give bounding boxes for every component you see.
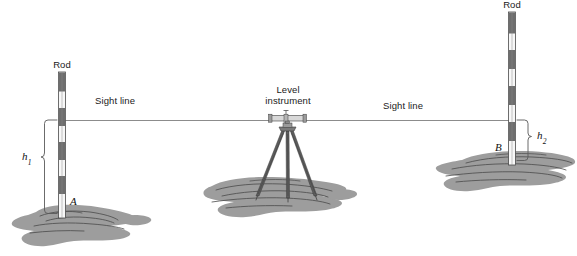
- level-instrument-label: Level instrument: [265, 85, 310, 107]
- height-1-label: h1: [22, 150, 31, 165]
- ground-left: [12, 205, 152, 246]
- height-2-subscript: 2: [543, 137, 547, 146]
- leveling-survey-diagram: Rod Rod Sight line Sight line Level inst…: [0, 0, 577, 256]
- right-rod: [509, 12, 516, 165]
- height-1-subscript: 1: [28, 158, 32, 167]
- left-rod-label: Rod: [53, 60, 71, 71]
- height-2-symbol: h: [537, 129, 543, 141]
- instrument-spindle: [286, 121, 290, 124]
- sight-line-right-label: Sight line: [383, 101, 423, 112]
- ground-right: [436, 151, 575, 191]
- height-2-label: h2: [537, 129, 546, 144]
- level-instrument-label-line2: instrument: [265, 96, 310, 107]
- diagram-canvas: [0, 0, 577, 256]
- telescope-eyepiece-ring: [303, 114, 307, 122]
- point-b-label: B: [495, 141, 502, 153]
- left-rod: [59, 72, 66, 218]
- sight-line-left-label: Sight line: [95, 96, 135, 107]
- tripod-head: [279, 123, 296, 131]
- point-a-label: A: [70, 195, 77, 207]
- ground-center-shape: [203, 177, 346, 217]
- h1-bracket: [41, 120, 57, 214]
- telescope-objective-ring: [269, 114, 273, 122]
- instrument-telescope: [269, 111, 307, 124]
- ground-center: [203, 177, 357, 217]
- telescope-sight-vane: [284, 111, 289, 115]
- h1-bracket-path: [41, 120, 57, 214]
- height-1-symbol: h: [22, 150, 28, 162]
- right-rod-label: Rod: [503, 0, 521, 11]
